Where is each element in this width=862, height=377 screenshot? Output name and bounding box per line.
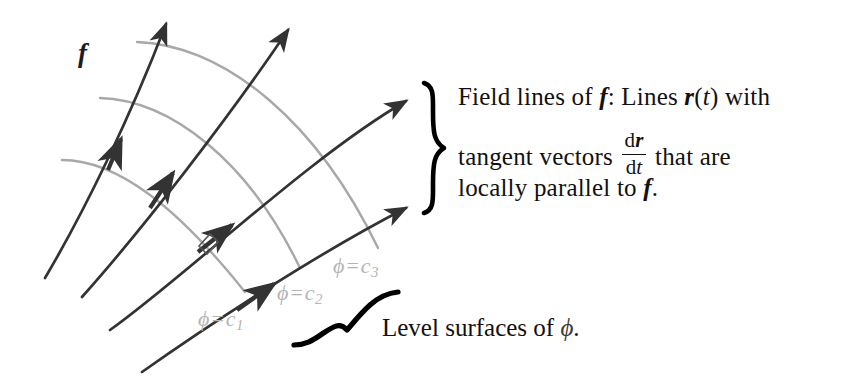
annotation-line3-period: . [652, 174, 658, 201]
level-label-c2-phi: ϕ [277, 280, 288, 305]
level-surface-label-c2: ϕ=c2 [277, 280, 323, 308]
derivative-fraction: dr dt [622, 130, 645, 179]
fraction-num-d: d [624, 128, 635, 152]
level-label-c3-index: 3 [371, 264, 379, 280]
annotation-line-3: locally parallel to f. [458, 175, 658, 200]
level-label-c1-phi: ϕ [198, 306, 209, 331]
annotation-line1-var-t: t [703, 83, 710, 110]
level-surface-c1 [62, 160, 245, 292]
annotation-line1-paren-open: ( [694, 83, 703, 110]
level-label-c2-value: c [305, 280, 315, 305]
annotation-line1-vector-r: r [684, 83, 694, 110]
annotation-line2-text-a: tangent vectors [458, 143, 613, 170]
level-label-c1-equals: = [209, 306, 225, 331]
fraction-num-r: r [635, 128, 643, 152]
annotation-line-1: Field lines of f: Lines r(t) with [458, 84, 770, 109]
level-label-c1-index: 1 [236, 317, 244, 333]
level-surface-label-c3: ϕ=c3 [333, 253, 379, 281]
level-surfaces-caption: Level surfaces of ϕ. [382, 314, 580, 342]
annotation-line1-text-c: ) with [710, 83, 770, 110]
field-line-4 [142, 208, 406, 372]
level-surface-label-c1: ϕ=c1 [198, 306, 244, 334]
annotation-line1-vector-f: f [599, 83, 608, 110]
level-label-c2-index: 2 [315, 291, 323, 307]
right-curly-brace [424, 83, 444, 213]
annotation-line1-text-b: : Lines [608, 83, 685, 110]
field-line-1 [45, 24, 166, 278]
level-label-c3-value: c [361, 253, 371, 278]
annotation-line3-text-a: locally parallel to [458, 174, 643, 201]
field-label-f: f [78, 38, 87, 69]
level-label-c2-equals: = [288, 280, 304, 305]
caption-text-before: Level surfaces of [382, 314, 560, 341]
annotation-line2-text-b: that are [655, 143, 731, 170]
level-label-c1-value: c [226, 306, 236, 331]
caption-phi-symbol: ϕ [560, 314, 573, 341]
level-label-c3-phi: ϕ [333, 253, 344, 278]
annotation-line1-text-a: Field lines of [458, 83, 599, 110]
diagram-root: f Field lines of f: Lines r(t) with tang… [0, 0, 862, 377]
fraction-numerator: dr [622, 130, 645, 153]
annotation-line3-vector-f: f [643, 174, 652, 201]
level-label-c3-equals: = [344, 253, 360, 278]
annotation-line-2: tangent vectors dr dt that are [458, 130, 731, 179]
caption-text-after: . [573, 314, 579, 341]
